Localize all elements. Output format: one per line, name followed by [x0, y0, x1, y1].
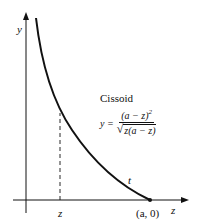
y-axis-label: y — [17, 24, 22, 35]
equation-lhs: y = — [100, 118, 114, 129]
equation-numerator: (a − z)2 — [119, 110, 154, 123]
endpoint-dot — [148, 198, 152, 202]
endpoint-label-text: (a, 0) — [136, 207, 159, 219]
numerator-exponent: 2 — [148, 108, 152, 116]
sqrt-icon: √ — [117, 124, 124, 134]
curve-name-label: Cissoid — [100, 93, 133, 104]
y-axis-arrow-icon — [23, 12, 29, 20]
cissoid-equation: y = (a − z)2 √z(a − z) — [100, 110, 156, 136]
equation-fraction: (a − z)2 √z(a − z) — [117, 110, 157, 136]
endpoint-label: (a, 0) — [136, 208, 159, 219]
x-axis-label: z — [171, 205, 175, 216]
z-marker-label: z — [58, 208, 62, 219]
numerator-text: (a − z) — [121, 110, 148, 121]
denominator-radicand: z(a − z) — [123, 124, 156, 136]
cissoid-curve — [36, 18, 150, 200]
equation-denominator: √z(a − z) — [117, 123, 157, 136]
tangent-label: t — [128, 175, 131, 186]
x-axis-arrow-icon — [181, 197, 189, 203]
